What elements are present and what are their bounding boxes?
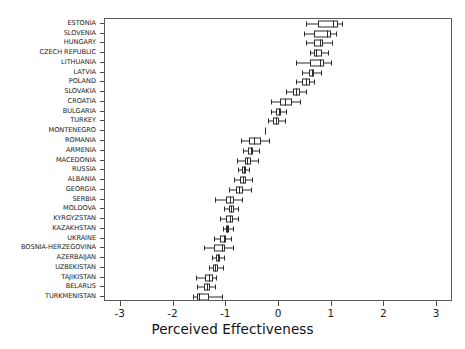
boxplot-whisker-low: [204, 248, 214, 249]
x-axis-tick-label: -1: [220, 307, 230, 319]
y-axis-label-tajikistan: TAJIKISTAN: [61, 273, 96, 280]
boxplot-cap-high: [238, 207, 239, 212]
boxplot-cap-high: [224, 256, 225, 261]
y-axis-tick: [100, 81, 104, 82]
boxplot-cap-high: [233, 246, 234, 251]
boxplot-median: [209, 274, 210, 281]
y-axis-label-lithuania: LITHUANIA: [61, 58, 96, 65]
boxplot-median: [227, 225, 228, 232]
boxplot-cap-high: [242, 197, 243, 202]
boxplot-cap-low: [237, 158, 238, 163]
y-axis-tick: [100, 208, 104, 209]
boxplot-cap-high: [321, 70, 322, 75]
y-axis-tick: [100, 130, 104, 131]
y-axis-label-russia: RUSSIA: [72, 166, 96, 173]
y-axis-tick: [100, 23, 104, 24]
y-axis-label-turkmenistan: TURKMENISTAN: [45, 293, 96, 300]
boxplot-median: [254, 137, 255, 144]
boxplot-cap-high: [306, 90, 307, 95]
boxplot-median: [327, 30, 328, 37]
boxplot-cap-high: [222, 295, 223, 300]
boxplot-cap-low: [212, 256, 213, 261]
y-axis-tick: [100, 140, 104, 141]
boxplot-cap-high: [285, 119, 286, 124]
y-axis-label-estonia: ESTONIA: [67, 19, 96, 26]
boxplot-cap-high: [238, 217, 239, 222]
boxplot-whisker-low: [241, 140, 249, 141]
boxplot-cap-low: [296, 80, 297, 85]
chart-figure: ESTONIASLOVENIAHUNGARYCZECH REPUBLICLITH…: [0, 0, 465, 349]
x-axis-tick-label: 1: [327, 307, 334, 319]
y-axis-tick: [100, 72, 104, 73]
y-axis-label-poland: POLAND: [69, 78, 96, 85]
boxplot-cap-low: [286, 90, 287, 95]
boxplot-box: [214, 245, 225, 252]
boxplot-cap-high: [342, 21, 343, 26]
x-axis-tick-label: -2: [167, 307, 177, 319]
y-axis-label-bulgaria: BULGARIA: [63, 107, 96, 114]
boxplot-cap-low: [310, 51, 311, 56]
y-axis-label-slovenia: SLOVENIA: [64, 29, 96, 36]
boxplot-cap-low: [229, 187, 230, 192]
boxplot-median: [312, 69, 313, 76]
boxplot-cap-high: [216, 275, 217, 280]
boxplot-cap-low: [238, 168, 239, 173]
y-axis-label-azerbaijan: AZERBAIJAN: [56, 254, 96, 261]
boxplot-median: [320, 40, 321, 47]
y-axis-tick: [100, 62, 104, 63]
boxplot-median: [207, 284, 208, 291]
boxplot-cap-low: [196, 275, 197, 280]
boxplot-cap-high: [231, 236, 232, 241]
boxplot-whisker-high: [234, 199, 242, 200]
boxplot-median: [306, 79, 307, 86]
y-axis-label-moldova: MOLDOVA: [63, 205, 96, 212]
boxplot-whisker-high: [323, 43, 331, 44]
y-axis-tick: [100, 247, 104, 248]
y-axis-tick: [100, 150, 104, 151]
boxplot-cap-low: [268, 119, 269, 124]
y-axis-label-albania: ALBANIA: [68, 176, 96, 183]
x-axis-tick-label: -3: [115, 307, 125, 319]
boxplot-cap-high: [223, 265, 224, 270]
x-axis-tick: [173, 301, 174, 306]
boxplot-cap-high: [314, 80, 315, 85]
y-axis-label-kazakhstan: KAZAKHSTAN: [52, 224, 96, 231]
boxplot-cap-low: [209, 265, 210, 270]
y-axis-tick: [100, 160, 104, 161]
boxplot-cap-low: [215, 197, 216, 202]
boxplot-whisker-low: [306, 23, 318, 24]
x-axis-tick: [383, 301, 384, 306]
y-axis-category-labels: ESTONIASLOVENIAHUNGARYCZECH REPUBLICLITH…: [0, 18, 104, 301]
boxplot-median: [244, 167, 245, 174]
y-axis-label-croatia: CROATIA: [68, 97, 96, 104]
y-axis-tick: [100, 267, 104, 268]
boxplot-median: [296, 89, 297, 96]
boxplot-cap-low: [271, 109, 272, 114]
boxplot-median: [199, 294, 200, 301]
y-axis-label-czech-republic: CZECH REPUBLIC: [39, 49, 96, 56]
y-axis-label-turkey: TURKEY: [70, 117, 96, 124]
boxplot-median: [251, 147, 252, 154]
boxplot-cap-high: [249, 168, 250, 173]
boxplot-cap-high: [252, 178, 253, 183]
y-axis-label-ukraine: UKRAINE: [67, 234, 96, 241]
boxplot-whisker-high: [209, 297, 221, 298]
boxplot-cap-high: [300, 99, 301, 104]
boxplot-cap-high: [331, 60, 332, 65]
boxplot-cap-high: [251, 187, 252, 192]
y-axis-label-uzbekistan: UZBEKISTAN: [55, 263, 96, 270]
plot-area: [104, 18, 452, 301]
y-axis-tick: [100, 91, 104, 92]
boxplot-median: [230, 196, 231, 203]
x-axis-tick-label: 3: [433, 307, 440, 319]
y-axis-label-kyrgyzstan: KYRGYZSTAN: [53, 215, 96, 222]
y-axis-label-georgia: GEORGIA: [66, 185, 96, 192]
boxplot-cap-high: [215, 285, 216, 290]
boxplot-box: [314, 30, 330, 37]
x-axis-tick-label: 2: [380, 307, 387, 319]
boxplot-box: [318, 20, 338, 27]
y-axis-tick: [100, 218, 104, 219]
y-axis-tick: [100, 120, 104, 121]
boxplot-cap-low: [193, 295, 194, 300]
boxplot-median: [320, 59, 321, 66]
